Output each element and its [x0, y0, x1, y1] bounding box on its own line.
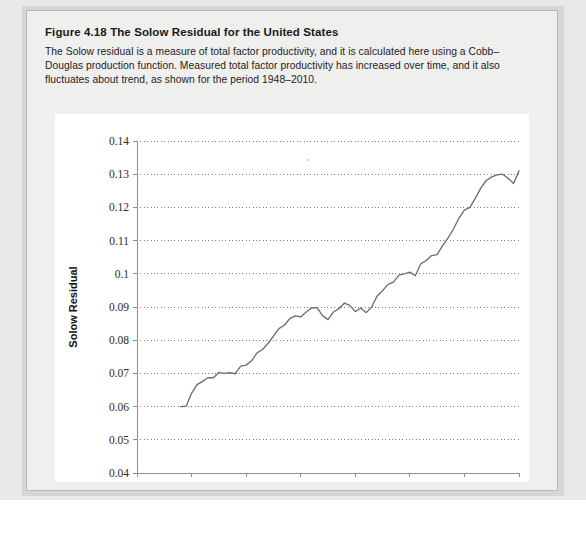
y-tick-label: 0.12 [109, 201, 129, 213]
figure-caption: The Solow residual is a measure of total… [45, 45, 515, 88]
figure-page: Figure 4.18 The Solow Residual for the U… [0, 0, 586, 543]
x-tick-label: 1960 [235, 480, 258, 482]
y-tick-label: 0.08 [109, 334, 129, 346]
chart-plot-area: 0.040.050.060.070.080.090.10.110.120.130… [55, 114, 529, 482]
y-tick-label: 0.04 [109, 467, 129, 479]
y-tick-label: 0.14 [109, 135, 129, 147]
scan-artifact-speck [307, 159, 309, 161]
y-tick-label: 0.1 [115, 268, 130, 280]
y-axis-title: Solow Residual [67, 266, 79, 347]
figure-header: Figure 4.18 The Solow Residual for the U… [27, 11, 557, 88]
y-tick-label: 0.06 [109, 401, 129, 413]
page-title: The Solow Residual for the United States [110, 26, 338, 38]
y-tick-label: 0.05 [109, 434, 129, 446]
x-tick-label: 1940 [126, 480, 149, 482]
figure-label: Figure 4.18 [45, 26, 107, 38]
figure-title-line: Figure 4.18 The Solow Residual for the U… [45, 25, 539, 40]
y-tick-label: 0.13 [109, 168, 129, 180]
x-tick-label: 2000 [453, 480, 476, 482]
y-tick-label: 0.11 [109, 235, 129, 247]
x-tick-label: 1980 [344, 480, 367, 482]
figure-container: Figure 4.18 The Solow Residual for the U… [26, 10, 558, 491]
solow-residual-line-chart: 0.040.050.060.070.080.090.10.110.120.130… [55, 114, 529, 482]
y-tick-label: 0.07 [109, 367, 129, 379]
x-tick-label: 1970 [289, 480, 312, 482]
y-tick-label: 0.09 [109, 301, 129, 313]
x-tick-label: 1990 [398, 480, 421, 482]
x-tick-label: 1950 [180, 480, 203, 482]
x-tick-label: 2010 [508, 480, 530, 482]
